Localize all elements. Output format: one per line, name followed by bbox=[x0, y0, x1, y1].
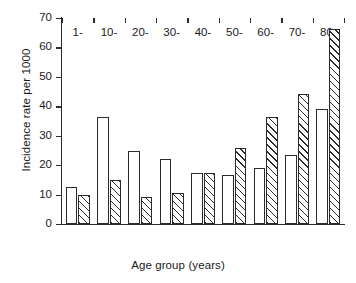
x-tick-mark bbox=[219, 18, 220, 23]
y-tick-mark bbox=[56, 165, 62, 166]
x-tick-label: 1- bbox=[73, 27, 83, 39]
x-tick-mark bbox=[93, 18, 94, 23]
y-tick-label: 30 bbox=[39, 130, 52, 142]
bar bbox=[235, 148, 247, 224]
bar bbox=[222, 175, 234, 224]
plot-area: 010203040506070 1-10-20-30-40-50-60-70-8… bbox=[62, 18, 344, 224]
x-tick-mark bbox=[156, 18, 157, 23]
y-tick-label: 10 bbox=[39, 189, 52, 201]
y-tick-label: 50 bbox=[39, 71, 52, 83]
y-tick-label: 20 bbox=[39, 159, 52, 171]
bar bbox=[78, 195, 90, 224]
bar bbox=[285, 155, 297, 224]
x-tick-mark bbox=[187, 18, 188, 23]
x-tick-mark bbox=[125, 18, 126, 23]
x-tick-label: 60- bbox=[257, 27, 274, 39]
x-tick-mark bbox=[313, 18, 314, 23]
x-tick-mark bbox=[281, 18, 282, 23]
y-tick-mark bbox=[56, 224, 62, 225]
y-tick-mark bbox=[56, 106, 62, 107]
x-tick-label: 40- bbox=[195, 27, 212, 39]
x-tick-label: 10- bbox=[101, 27, 118, 39]
x-tick-label: 70- bbox=[289, 27, 306, 39]
y-tick-label: 70 bbox=[39, 12, 52, 24]
bar bbox=[66, 187, 78, 224]
y-tick-label: 0 bbox=[46, 218, 52, 230]
x-tick-mark bbox=[62, 18, 63, 23]
bar bbox=[110, 180, 122, 224]
y-tick-label: 40 bbox=[39, 101, 52, 113]
y-tick-label: 60 bbox=[39, 42, 52, 54]
y-axis-title: Incidence rate per 1000 bbox=[20, 10, 32, 210]
bar bbox=[204, 173, 216, 224]
y-tick-mark bbox=[56, 47, 62, 48]
x-tick-mark bbox=[344, 18, 345, 23]
x-tick-mark bbox=[250, 18, 251, 23]
bar bbox=[254, 168, 266, 224]
bar bbox=[329, 29, 341, 224]
bar bbox=[316, 109, 328, 224]
bar bbox=[141, 197, 153, 224]
bar bbox=[128, 151, 140, 224]
y-tick-mark bbox=[56, 195, 62, 196]
x-axis-title: Age group (years) bbox=[0, 259, 356, 271]
bar-chart: Incidence rate per 1000 010203040506070 … bbox=[0, 0, 356, 283]
bar bbox=[298, 94, 310, 224]
bar bbox=[172, 193, 184, 224]
bar bbox=[191, 173, 203, 225]
bar bbox=[97, 117, 109, 224]
x-axis-line bbox=[61, 224, 345, 225]
x-tick-label: 30- bbox=[163, 27, 180, 39]
x-tick-label: 20- bbox=[132, 27, 149, 39]
x-tick-label: 50- bbox=[226, 27, 243, 39]
y-tick-mark bbox=[56, 136, 62, 137]
bar bbox=[160, 159, 172, 224]
bar bbox=[266, 117, 278, 224]
y-tick-mark bbox=[56, 77, 62, 78]
